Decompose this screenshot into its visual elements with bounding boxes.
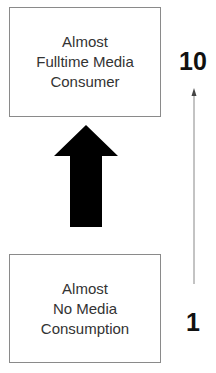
- big-up-arrow-icon: [54, 125, 118, 227]
- scale-max-label: 10: [179, 47, 207, 76]
- scale-arrowhead-icon: [192, 88, 197, 96]
- scale-min-label: 1: [186, 308, 200, 337]
